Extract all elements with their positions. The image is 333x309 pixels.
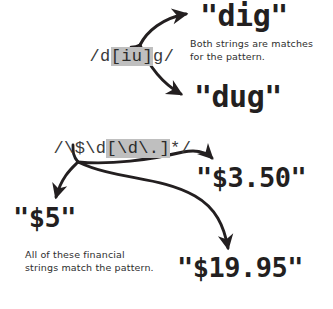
pattern-prefix: /d xyxy=(89,47,110,66)
pattern-character-class-highlight: [\d\.] xyxy=(106,139,170,158)
regex-pattern-dig: /d[iu]g/ xyxy=(47,28,174,85)
regex-pattern-money: /\$\d[\d\.]*/ xyxy=(11,120,191,177)
match-string-dollar350: "$3.50" xyxy=(196,162,306,193)
pattern-prefix: /\$\d xyxy=(53,139,106,158)
match-string-dollar1995: "$19.95" xyxy=(177,252,303,283)
pattern-suffix: g/ xyxy=(153,47,174,66)
match-string-dug: "dug" xyxy=(194,79,282,114)
pattern-suffix: */ xyxy=(170,139,191,158)
diagram-canvas: /d[iu]g/ "dig" Both strings are matches … xyxy=(0,0,333,309)
annotation-dig-dug: Both strings are matches for the pattern… xyxy=(190,38,332,63)
match-string-dollar5: "$5" xyxy=(13,202,76,233)
match-string-dig: "dig" xyxy=(200,0,288,33)
pattern-character-class-highlight: [iu] xyxy=(111,47,153,66)
annotation-money: All of these financial strings match the… xyxy=(25,249,185,274)
